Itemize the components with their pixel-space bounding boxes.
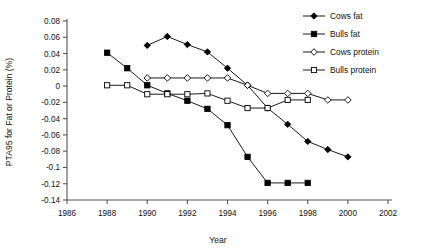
- y-axis-tick-label: 0.02: [44, 66, 60, 75]
- x-axis-tick-label: 2000: [339, 209, 358, 218]
- x-axis-tick-label: 1988: [98, 209, 117, 218]
- data-point-marker: [311, 49, 318, 56]
- data-point-marker: [265, 105, 270, 110]
- series-polyline: [107, 53, 308, 183]
- x-axis-tick-label: 1986: [58, 209, 77, 218]
- data-point-marker: [184, 75, 191, 82]
- data-point-marker: [104, 50, 109, 55]
- legend-label: Bulls fat: [330, 29, 360, 39]
- data-point-marker: [305, 97, 310, 102]
- legend-item-cows-fat[interactable]: Cows fat: [303, 11, 363, 21]
- data-point-marker: [204, 75, 211, 82]
- y-axis-tick-label: -0.1: [46, 163, 61, 172]
- data-point-marker: [285, 97, 290, 102]
- x-axis-tick-labels: 198619881990199219941996199820002002: [58, 209, 398, 218]
- data-point-marker: [185, 92, 190, 97]
- data-point-marker: [184, 41, 190, 47]
- y-axis-tick-label: -0.02: [41, 98, 60, 107]
- data-point-marker: [325, 97, 332, 104]
- chart-legend: Cows fatBulls fatCows proteinBulls prote…: [303, 11, 379, 75]
- data-point-marker: [325, 146, 331, 152]
- y-axis-tick-label: 0.06: [44, 33, 60, 42]
- data-point-marker: [265, 180, 270, 185]
- y-axis-tick-label: 0.08: [44, 17, 60, 26]
- data-point-marker: [165, 92, 170, 97]
- x-axis-tick-label: 1990: [138, 209, 157, 218]
- data-point-marker: [105, 83, 110, 88]
- data-point-marker: [144, 42, 150, 48]
- line-chart: 0.080.060.040.020-0.02-0.04-0.06-0.08-0.…: [0, 0, 425, 252]
- x-axis-tick-label: 1996: [259, 209, 278, 218]
- data-point-marker: [304, 90, 311, 97]
- legend-item-bulls-protein[interactable]: Bulls protein: [303, 65, 376, 75]
- y-axis-tick-label: -0.04: [41, 115, 60, 124]
- legend-label: Cows protein: [330, 47, 379, 57]
- legend-item-bulls-fat[interactable]: Bulls fat: [303, 29, 360, 39]
- y-axis-tick-label: -0.08: [41, 147, 60, 156]
- y-axis-title: PTA95 for Fat or Protein (%): [4, 58, 14, 166]
- x-axis-title: Year: [209, 235, 227, 245]
- data-point-marker: [185, 98, 190, 103]
- data-point-marker: [311, 31, 316, 36]
- data-point-marker: [205, 106, 210, 111]
- data-point-marker: [311, 13, 317, 19]
- data-point-marker: [305, 180, 310, 185]
- x-axis-tick-label: 2002: [379, 209, 398, 218]
- data-point-marker: [245, 154, 250, 159]
- data-point-marker: [164, 33, 170, 39]
- data-point-marker: [125, 83, 130, 88]
- data-point-marker: [245, 105, 250, 110]
- series-polyline: [107, 85, 308, 108]
- data-point-marker: [205, 91, 210, 96]
- data-point-marker: [345, 97, 352, 104]
- y-axis-tick-label: 0: [55, 82, 60, 91]
- data-point-marker: [164, 75, 171, 82]
- x-axis-tick-label: 1994: [218, 209, 237, 218]
- x-axis-tick-label: 1998: [299, 209, 318, 218]
- data-point-marker: [225, 122, 230, 127]
- data-point-marker: [145, 83, 150, 88]
- y-axis-tick-labels: 0.080.060.040.020-0.02-0.04-0.06-0.08-0.…: [41, 17, 60, 205]
- data-point-marker: [311, 67, 316, 72]
- data-point-marker: [144, 75, 151, 82]
- y-axis-tick-label: -0.14: [41, 196, 60, 205]
- series-cows-protein: [144, 75, 351, 104]
- legend-item-cows-protein[interactable]: Cows protein: [303, 47, 379, 57]
- data-point-marker: [225, 98, 230, 103]
- data-point-marker: [284, 90, 291, 97]
- x-axis-tick-label: 1992: [178, 209, 197, 218]
- chart-container: 0.080.060.040.020-0.02-0.04-0.06-0.08-0.…: [0, 0, 425, 252]
- data-point-marker: [145, 92, 150, 97]
- y-axis-tick-label: -0.12: [41, 180, 60, 189]
- data-point-marker: [285, 180, 290, 185]
- data-point-marker: [264, 90, 271, 97]
- data-series: [104, 33, 351, 185]
- y-axis-tick-label: -0.06: [41, 131, 60, 140]
- y-axis-tick-label: 0.04: [44, 50, 60, 59]
- data-point-marker: [124, 65, 129, 70]
- legend-label: Cows fat: [330, 11, 363, 21]
- data-point-marker: [345, 154, 351, 160]
- data-point-marker: [224, 75, 231, 82]
- legend-label: Bulls protein: [330, 65, 376, 75]
